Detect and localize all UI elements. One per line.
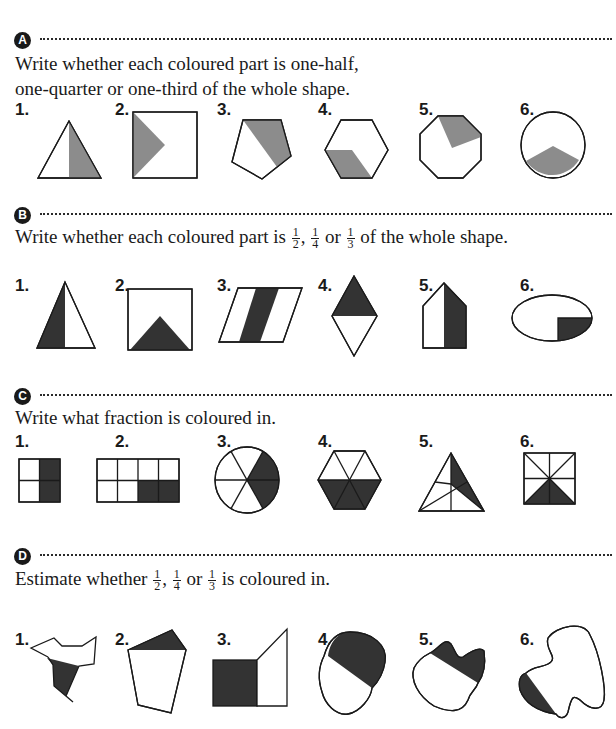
shapes-canvas (0, 0, 616, 729)
shape-b1-triangle (37, 282, 95, 348)
shape-a1-triangle (38, 121, 101, 178)
shape-b3-parallelogram (219, 288, 302, 342)
shape-b6-ellipse (512, 295, 592, 341)
shape-d3-square-triangle (213, 629, 287, 706)
shape-d1-irregular (31, 637, 96, 702)
shape-a2-square (133, 112, 197, 178)
shape-b5-pentagon (423, 283, 466, 348)
shape-d2-pentagon (128, 630, 186, 713)
shape-c5-triangle (419, 453, 484, 511)
shape-c3-circle (215, 447, 279, 513)
shape-a3-pentagon (232, 120, 291, 179)
shape-d5-blob (413, 642, 485, 711)
shape-c4-hexagon (318, 451, 381, 509)
shape-b2-rectangle (128, 289, 192, 350)
shape-a5-octagon (420, 116, 481, 178)
shape-c2-grid (97, 459, 179, 502)
shape-c6-square (524, 453, 575, 504)
shape-d4-blob (319, 632, 385, 714)
shape-a4-hexagon (325, 120, 388, 178)
shape-d6-blob (519, 626, 604, 718)
shape-c1-grid (19, 459, 60, 502)
shape-b4-rhombus (332, 276, 377, 356)
shape-a6-circle (521, 112, 585, 178)
